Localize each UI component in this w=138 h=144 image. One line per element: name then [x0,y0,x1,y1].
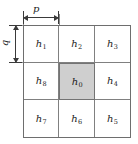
cell-grid: h1 h2 h3 h8 h0 h4 h7 h6 h5 [23,25,131,138]
dimension-tick-bottom [9,62,22,63]
grid-cell: h8 [24,63,59,100]
dimension-tick-top [9,25,22,26]
dimension-label-q: q [0,40,10,46]
cell-label: h2 [71,39,82,49]
grid-cell-center: h0 [59,63,94,100]
cell-label: h3 [107,39,118,49]
cell-label: h8 [36,76,47,86]
cell-label: h5 [107,114,118,124]
neighborhood-grid-figure: p q h1 h2 h3 h8 h0 h4 h7 [0,0,138,144]
grid-cell: h6 [59,100,94,137]
dimension-tick-right [58,11,59,24]
dimension-tick-left [23,11,24,24]
cell-label: h4 [107,76,118,86]
grid-cell: h5 [95,100,130,137]
grid-cell: h7 [24,100,59,137]
cell-label: h1 [36,39,47,49]
cell-label-center: h0 [72,77,83,87]
dimension-label-p: p [33,4,39,14]
cell-label: h6 [71,114,82,124]
dimension-line-vertical [15,25,16,63]
grid-cell: h3 [95,26,130,63]
grid-cell: h4 [95,63,130,100]
grid-cell: h1 [24,26,59,63]
dimension-line-horizontal [23,17,59,18]
cell-label: h7 [36,114,47,124]
grid-cell: h2 [59,26,94,63]
